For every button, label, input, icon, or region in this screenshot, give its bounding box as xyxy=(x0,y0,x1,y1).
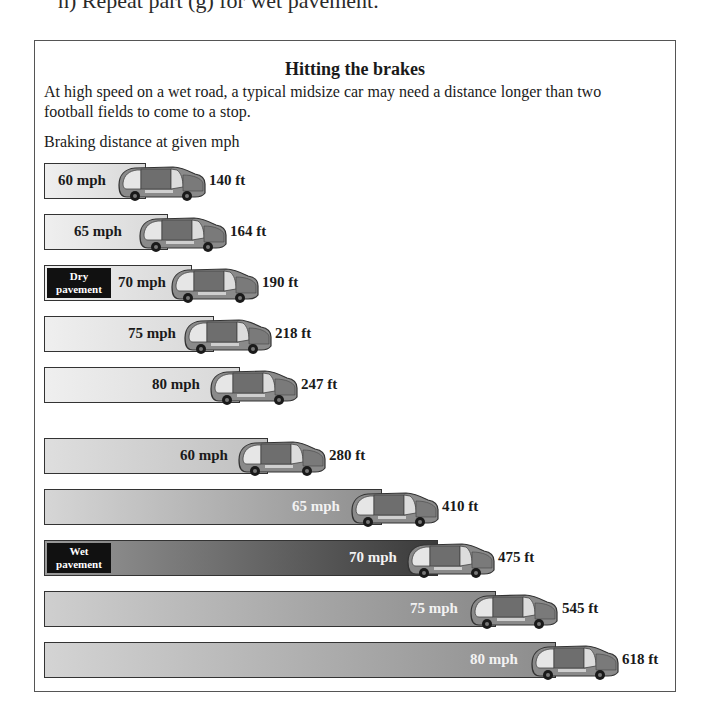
distance-label: 140 ft xyxy=(209,172,245,189)
speed-label: 65 mph xyxy=(292,498,340,515)
car-icon xyxy=(467,591,559,631)
speed-label: 80 mph xyxy=(470,651,518,668)
car-icon xyxy=(181,316,273,356)
car-icon xyxy=(404,540,496,580)
car-icon xyxy=(528,642,620,682)
speed-label: 70 mph xyxy=(118,274,166,291)
speed-label: 70 mph xyxy=(349,549,397,566)
distance-label: 410 ft xyxy=(442,498,478,515)
distance-label: 218 ft xyxy=(275,325,311,342)
speed-label: 75 mph xyxy=(410,600,458,617)
distance-label: 280 ft xyxy=(329,447,365,464)
car-icon xyxy=(168,265,260,305)
distance-label: 618 ft xyxy=(622,651,658,668)
distance-label: 164 ft xyxy=(230,223,266,240)
chart-title: Hitting the brakes xyxy=(34,59,676,80)
dry-pavement-badge: Dry pavement xyxy=(47,268,111,298)
wet-pavement-badge: Wet pavement xyxy=(47,543,111,573)
car-icon xyxy=(115,163,207,203)
chart-caption: Braking distance at given mph xyxy=(44,133,240,151)
speed-label: 60 mph xyxy=(180,447,228,464)
distance-label: 475 ft xyxy=(498,549,534,566)
speed-label: 75 mph xyxy=(128,325,176,342)
speed-label: 60 mph xyxy=(58,172,106,189)
car-icon xyxy=(207,367,299,407)
speed-label: 80 mph xyxy=(152,376,200,393)
car-icon xyxy=(136,214,228,254)
car-icon xyxy=(235,438,327,478)
car-icon xyxy=(348,489,440,529)
distance-label: 247 ft xyxy=(301,376,337,393)
question-text: h) Repeat part (g) for wet pavement. xyxy=(58,0,379,14)
distance-label: 190 ft xyxy=(262,274,298,291)
speed-label: 65 mph xyxy=(74,223,122,240)
chart-subtitle: At high speed on a wet road, a typical m… xyxy=(44,82,644,122)
distance-label: 545 ft xyxy=(562,600,598,617)
